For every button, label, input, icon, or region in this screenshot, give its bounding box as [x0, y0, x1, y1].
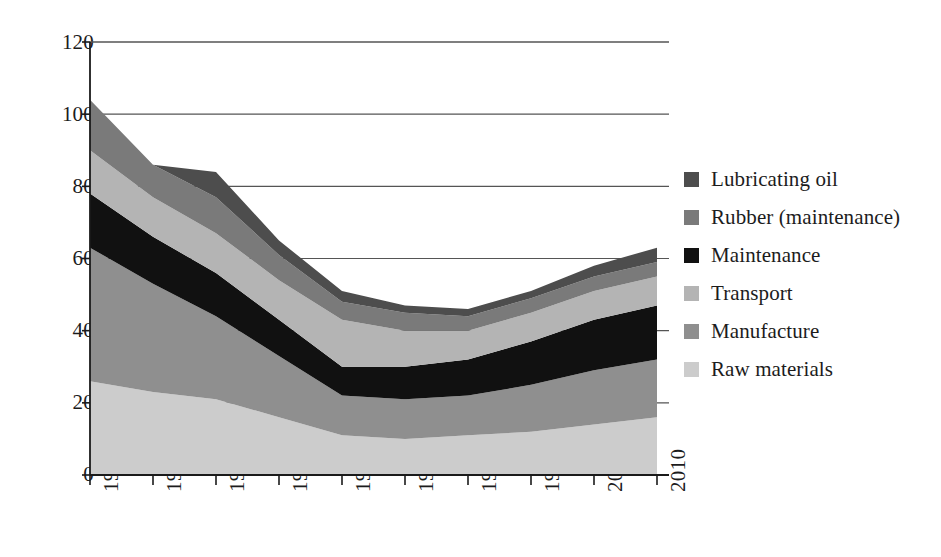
area-chart: 120 100 80 60 40 20 0 1920 1930 1940 195… — [0, 0, 941, 557]
legend-item-label: Manufacture — [711, 319, 819, 344]
legend: Lubricating oil Rubber (maintenance) Mai… — [684, 160, 900, 388]
legend-swatch-icon — [684, 286, 699, 301]
legend-item-label: Maintenance — [711, 243, 821, 268]
legend-item-label: Lubricating oil — [711, 167, 838, 192]
legend-swatch-icon — [684, 362, 699, 377]
legend-swatch-icon — [684, 248, 699, 263]
legend-swatch-icon — [684, 324, 699, 339]
legend-item-label: Rubber (maintenance) — [711, 205, 900, 230]
legend-item-label: Transport — [711, 281, 793, 306]
legend-swatch-icon — [684, 172, 699, 187]
legend-item[interactable]: Maintenance — [684, 236, 900, 274]
legend-item[interactable]: Rubber (maintenance) — [684, 198, 900, 236]
legend-item[interactable]: Lubricating oil — [684, 160, 900, 198]
legend-item-label: Raw materials — [711, 357, 833, 382]
legend-item[interactable]: Transport — [684, 274, 900, 312]
legend-swatch-icon — [684, 210, 699, 225]
legend-item[interactable]: Raw materials — [684, 350, 900, 388]
area-series-group — [90, 100, 657, 475]
legend-item[interactable]: Manufacture — [684, 312, 900, 350]
